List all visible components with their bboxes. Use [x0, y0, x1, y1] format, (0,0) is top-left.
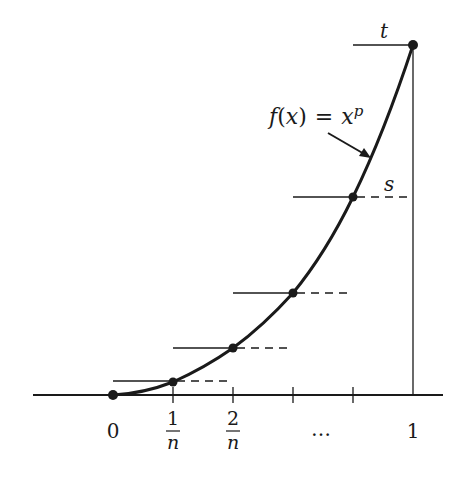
tick-label-1-n-num: 1: [167, 407, 179, 429]
tick-label-1-n-den: n: [167, 431, 179, 453]
tick-label-ellipsis: …: [311, 417, 335, 441]
tick-label-1: 1: [407, 419, 420, 443]
step-segments-solid: [113, 45, 413, 381]
diagram-canvas: f(x)=xp t s 0 1 n 2 n … 1: [0, 0, 467, 478]
label-arrow: [328, 133, 371, 158]
point-0: [108, 390, 118, 400]
point-1-n: [169, 378, 178, 387]
tick-label-2-n-den: n: [227, 431, 239, 453]
top-label-t: t: [380, 19, 389, 43]
point-3-n: [289, 289, 298, 298]
sample-points: [108, 40, 418, 400]
point-2-n: [229, 344, 238, 353]
function-curve: [113, 45, 413, 395]
tick-label-2-n-num: 2: [227, 407, 239, 429]
step-label-s: s: [384, 172, 394, 196]
tick-label-0: 0: [107, 419, 120, 443]
point-4-n: [349, 193, 358, 202]
point-1: [408, 40, 418, 50]
function-label: f(x)=xp: [267, 102, 364, 129]
